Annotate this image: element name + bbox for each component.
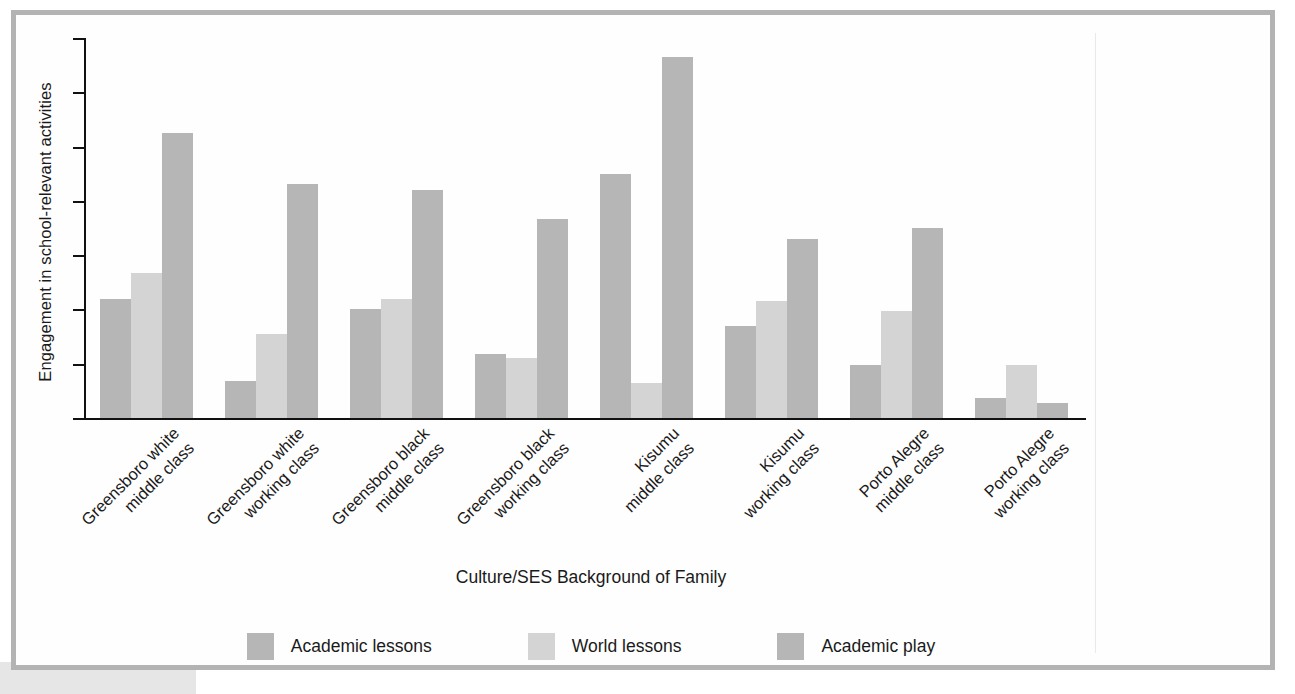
chart-legend: Academic lessonsWorld lessonsAcademic pl… [16,633,1166,660]
bar [1006,365,1037,418]
legend-swatch [777,633,804,660]
legend-swatch [247,633,274,660]
bar [881,311,912,418]
bar [850,365,881,418]
bar [537,219,568,418]
legend-item: World lessons [528,633,682,660]
bar [162,133,193,418]
bar [225,381,256,418]
bar-group [975,38,1068,418]
bar-group [350,38,443,418]
legend-swatch [528,633,555,660]
bar [412,190,443,418]
x-axis-category-labels: Greensboro white middle classGreensboro … [84,423,1094,553]
y-tick-mark [73,201,84,203]
y-tick-mark [73,418,84,420]
bar-groups [84,38,1084,418]
bar [912,228,943,418]
y-tick-mark [73,92,84,94]
figure-canvas: Engagement in school-relevant activities… [16,15,1270,665]
y-tick-mark [73,255,84,257]
legend-item: Academic play [777,633,935,660]
plot-area: 01234567 [84,38,1084,418]
bar [725,326,756,418]
bar [600,174,631,418]
legend-label: Academic play [821,636,935,657]
bar-chart: Engagement in school-relevant activities… [16,15,1270,665]
figure-frame: Engagement in school-relevant activities… [11,10,1275,670]
bar [350,309,381,418]
y-tick-mark [73,364,84,366]
bar-group [725,38,818,418]
bar [975,398,1006,418]
bar-group [225,38,318,418]
bar [506,358,537,418]
x-axis-line [84,418,1086,420]
legend-label: Academic lessons [291,636,432,657]
bar [1037,403,1068,418]
bar [787,239,818,418]
y-tick-mark [73,38,84,40]
bar-group [100,38,193,418]
bar-group [475,38,568,418]
bar-group [600,38,693,418]
bar-group [850,38,943,418]
legend-item: Academic lessons [247,633,432,660]
bar [256,334,287,418]
y-tick-mark [73,309,84,311]
bar [662,57,693,418]
scan-artifact-line [1095,33,1096,653]
bar [100,299,131,418]
bar [381,299,412,418]
bar [287,184,318,419]
bar [475,354,506,418]
y-axis-title: Engagement in school-relevant activities [36,37,60,427]
bar [756,301,787,418]
x-axis-title: Culture/SES Background of Family [16,567,1166,588]
y-tick-mark [73,147,84,149]
bar [131,273,162,418]
figure-page: Engagement in school-relevant activities… [0,0,1295,694]
legend-label: World lessons [572,636,682,657]
bar [631,383,662,418]
